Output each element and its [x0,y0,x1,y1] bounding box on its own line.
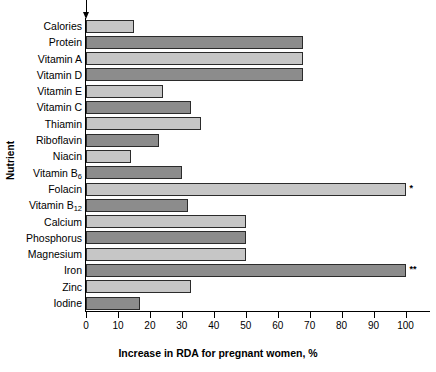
x-tick-mark [150,312,151,318]
bar-track [86,52,303,65]
bar-row: Vitamin D [0,67,436,83]
y-axis-line [85,18,86,312]
bar-track [86,280,191,293]
bar-track [86,20,134,33]
x-tick-mark [182,312,183,318]
bar-category-label: Iodine [0,295,86,311]
x-tick-mark [214,312,215,318]
x-tick-mark [342,312,343,318]
bar-row: Phosphorus [0,230,436,246]
bar-row: Calcium [0,214,436,230]
bar [86,85,163,98]
x-tick-mark [278,312,279,318]
bar-track [86,297,140,310]
bar-row: Magnesium [0,246,436,262]
bar [86,280,191,293]
bar-row: Thiamin [0,116,436,132]
bar-category-label: Phosphorus [0,230,86,246]
x-tick-mark [86,312,87,318]
bar-rows: CaloriesProteinVitamin AVitamin DVitamin… [0,18,436,311]
bar-track [86,101,191,114]
bar-category-label: Vitamin A [0,51,86,67]
bar-category-label: Vitamin D [0,67,86,83]
bar-row: Vitamin E [0,83,436,99]
bar-footnote-marker: * [406,182,414,195]
bar-category-label: Protein [0,34,86,50]
bar [86,150,131,163]
x-tick-mark [374,312,375,318]
bar-track: ** [86,264,406,277]
x-tick-mark [118,312,119,318]
bar-category-label: Calcium [0,214,86,230]
bar-row: Niacin [0,148,436,164]
bar-track [86,248,246,261]
bar [86,101,191,114]
x-tick-mark [246,312,247,318]
bar-track [86,36,303,49]
bar-footnote-marker: ** [406,263,417,276]
bar-category-label: Calories [0,18,86,34]
bar-row: Protein [0,34,436,50]
bar-chart: Nutrient CaloriesProteinVitamin AVitamin… [0,0,436,372]
bar [86,248,246,261]
bar [86,134,159,147]
bar-track [86,166,182,179]
bar-track [86,199,188,212]
plot-area: CaloriesProteinVitamin AVitamin DVitamin… [0,18,436,318]
x-axis-ticks: 0102030405060708090100 [0,312,436,338]
x-axis-title: Increase in RDA for pregnant women, % [0,347,436,359]
bar-track [86,117,201,130]
bar-row: Vitamin B6 [0,165,436,181]
bar-category-label: Zinc [0,279,86,295]
down-arrow-annotation-icon [81,0,93,20]
bar-category-label: Magnesium [0,246,86,262]
bar-row: Iodine [0,295,436,311]
bar-category-label: Riboflavin [0,132,86,148]
bar [86,215,246,228]
bar [86,183,406,196]
bar-row: Vitamin B12 [0,197,436,213]
bar [86,231,246,244]
bar-track [86,134,159,147]
bar [86,297,140,310]
bar-category-label: Thiamin [0,116,86,132]
bar-track [86,68,303,81]
bar-category-label: Niacin [0,148,86,164]
bar [86,264,406,277]
bar [86,68,303,81]
bar-row: Zinc [0,279,436,295]
bar-category-label: Vitamin E [0,83,86,99]
bar-row: Vitamin A [0,51,436,67]
bar-row: Iron** [0,262,436,278]
bar [86,199,188,212]
bar-row: Riboflavin [0,132,436,148]
bar [86,117,201,130]
bar [86,36,303,49]
bar-row: Calories [0,18,436,34]
bar [86,20,134,33]
bar-category-label: Vitamin C [0,99,86,115]
bar-track: * [86,183,406,196]
bar-track [86,150,131,163]
bar-track [86,215,246,228]
x-tick-label: 100 [386,320,426,331]
bar-track [86,231,246,244]
bar [86,166,182,179]
bar-row: Folacin* [0,181,436,197]
x-tick-mark [310,312,311,318]
bar-category-label: Folacin [0,181,86,197]
x-tick-mark [406,312,407,318]
bar-track [86,85,163,98]
bar-row: Vitamin C [0,99,436,115]
bar-category-label: Iron [0,262,86,278]
bar [86,52,303,65]
